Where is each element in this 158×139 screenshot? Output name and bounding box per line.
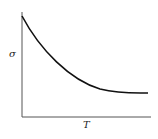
sigma-curve <box>22 16 148 93</box>
y-axis-label: σ <box>9 48 17 59</box>
x-axis-label: T <box>83 119 91 130</box>
chart: σ T <box>0 0 158 139</box>
